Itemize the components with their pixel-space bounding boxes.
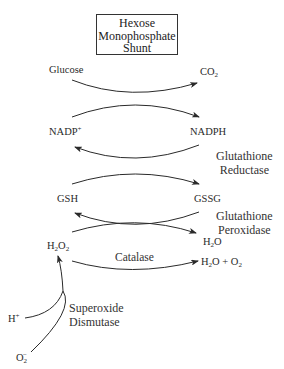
diagram-canvas: Hexose Monophosphate Shunt Glucose CO2 N…	[0, 0, 284, 369]
glucose-label: Glucose	[49, 64, 83, 76]
arrow-superoxide-to-h2o2	[31, 256, 66, 352]
arrow-gsh-to-gssg	[72, 174, 199, 184]
arrow-nadph-to-nadp	[75, 145, 199, 158]
reaction-arrows	[0, 0, 284, 369]
gssg-label: GSSG	[194, 193, 221, 205]
arrow-nadp-to-nadph	[72, 105, 199, 117]
catalase-label: Catalase	[115, 250, 154, 264]
h2o2-label: H2O2	[47, 240, 69, 252]
h2o-label: H2O	[203, 236, 222, 248]
gsh-label: GSH	[57, 193, 78, 205]
nadp-plus-label: NADP+	[49, 126, 82, 138]
h-plus-label: H+	[8, 313, 20, 325]
nadph-label: NADPH	[190, 126, 226, 138]
glutathione-reductase-label: Glutathione Reductase	[216, 149, 273, 177]
hexose-monophosphate-shunt-box: Hexose Monophosphate Shunt	[96, 14, 178, 55]
arrow-glucose-to-co2	[72, 80, 197, 92]
arrow-hplus-join	[25, 291, 63, 318]
title-line-1: Hexose	[97, 17, 177, 30]
superoxide-dismutase-label: Superoxide Dismutase	[69, 301, 124, 329]
co2-label: CO2	[200, 66, 218, 78]
superoxide-label: O2−	[16, 352, 27, 364]
glutathione-peroxidase-label: Glutathione Peroxidase	[216, 209, 273, 237]
title-line-3: Shunt	[97, 42, 177, 55]
h2o-o2-label: H2O + O2	[201, 256, 242, 268]
